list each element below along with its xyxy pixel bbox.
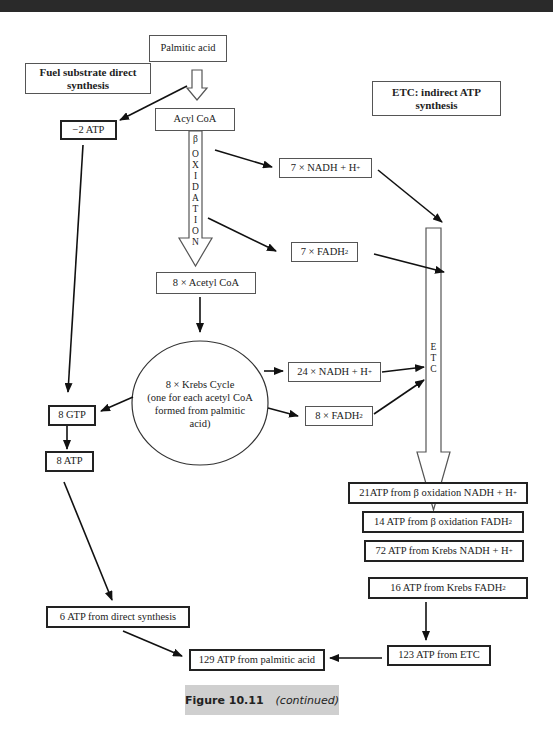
krebs-line: acid) <box>135 417 265 430</box>
krebs-line: formed from palmitic <box>135 404 265 417</box>
superscript: + <box>368 368 372 376</box>
atp-16-node: 16 ATP from Krebs FADH2 <box>368 577 528 599</box>
fuel-substrate-heading: Fuel substrate direct synthesis <box>25 63 151 94</box>
atp-8-node: 8 ATP <box>45 451 94 472</box>
atp-123-node: 123 ATP from ETC <box>387 645 491 666</box>
atp-129-node: 129 ATP from palmitic acid <box>189 649 325 671</box>
fadh-8-label: 8 × FADH <box>315 410 359 422</box>
beta-oxidation-letter: A <box>189 193 203 204</box>
figure-note: (continued) <box>276 694 339 707</box>
atp-14-node: 14 ATP from β oxidation FADH2 <box>362 511 524 533</box>
gtp-8-node: 8 GTP <box>48 405 96 426</box>
fadh-7-node: 7 × FADH2 <box>291 242 358 262</box>
minus-2-atp-node: −2 ATP <box>60 120 117 140</box>
subscript: 2 <box>359 412 363 420</box>
atp-6-label: 6 ATP from direct synthesis <box>60 611 176 623</box>
atp-123-label: 123 ATP from ETC <box>398 649 480 661</box>
fadh-8-node: 8 × FADH2 <box>305 406 373 426</box>
fadh-7-label: 7 × FADH <box>301 246 345 258</box>
atp-72-node: 72 ATP from Krebs NADH + H+ <box>364 540 524 562</box>
nadh-7-label: 7 × NADH + H <box>291 162 357 174</box>
nadh-24-label: 24 × NADH + H <box>297 366 368 378</box>
nadh-24-node: 24 × NADH + H+ <box>288 362 381 382</box>
krebs-line: 8 × Krebs Cycle <box>135 378 265 391</box>
figure-caption: Figure 10.11 (continued) <box>185 685 339 715</box>
atp-21-node: 21ATP from β oxidation NADH + H+ <box>348 482 528 504</box>
subscript: 2 <box>509 518 513 526</box>
etc-indirect-heading: ETC: indirect ATP synthesis <box>372 81 501 116</box>
atp-21-label: 21ATP from β oxidation NADH + H <box>359 487 513 499</box>
beta-oxidation-letter: O <box>189 149 203 160</box>
atp-129-label: 129 ATP from palmitic acid <box>199 654 315 666</box>
atp-14-label: 14 ATP from β oxidation FADH <box>374 516 509 528</box>
palmitic-acid-node: Palmitic acid <box>149 35 227 62</box>
beta-oxidation-letter: X <box>189 160 203 171</box>
superscript: + <box>513 489 517 497</box>
acyl-coa-node: Acyl CoA <box>155 108 235 131</box>
beta-oxidation-letter: D <box>189 182 203 193</box>
subscript: 2 <box>345 248 349 256</box>
etc-letter: E <box>427 342 441 353</box>
hollow-arrow-palmitic-to-acyl <box>187 70 207 100</box>
atp-6-node: 6 ATP from direct synthesis <box>46 606 190 628</box>
beta-oxidation-letter: N <box>189 237 203 248</box>
acyl-coa-label: Acyl CoA <box>174 113 217 125</box>
gtp-8-label: 8 GTP <box>58 409 86 421</box>
krebs-line: (one for each acetyl CoA <box>135 391 265 404</box>
nadh-7-node: 7 × NADH + H+ <box>279 158 372 178</box>
palmitic-acid-label: Palmitic acid <box>160 42 215 54</box>
beta-oxidation-letter: I <box>189 171 203 182</box>
etc-indirect-label: ETC: indirect ATP synthesis <box>383 86 490 111</box>
beta-oxidation-letter: O <box>189 226 203 237</box>
etc-letter: C <box>427 364 441 375</box>
beta-oxidation-letter: T <box>189 204 203 215</box>
superscript: + <box>509 547 513 555</box>
figure-number: Figure 10.11 <box>185 694 264 707</box>
etc-letter: T <box>427 353 441 364</box>
acetyl-coa-8-label: 8 × Acetyl CoA <box>173 277 239 289</box>
fuel-substrate-label: Fuel substrate direct synthesis <box>30 66 146 91</box>
acetyl-coa-8-node: 8 × Acetyl CoA <box>156 272 256 294</box>
beta-oxidation-letter: I <box>189 215 203 226</box>
minus-2-atp-label: −2 ATP <box>73 124 105 136</box>
beta-oxidation-letter: β <box>189 134 203 145</box>
atp-72-label: 72 ATP from Krebs NADH + H <box>375 545 508 557</box>
atp-8-label: 8 ATP <box>57 455 83 467</box>
superscript: + <box>356 164 360 172</box>
krebs-cycle-text: 8 × Krebs Cycle (one for each acetyl CoA… <box>135 378 265 431</box>
atp-16-label: 16 ATP from Krebs FADH <box>390 582 502 594</box>
subscript: 2 <box>502 584 506 592</box>
